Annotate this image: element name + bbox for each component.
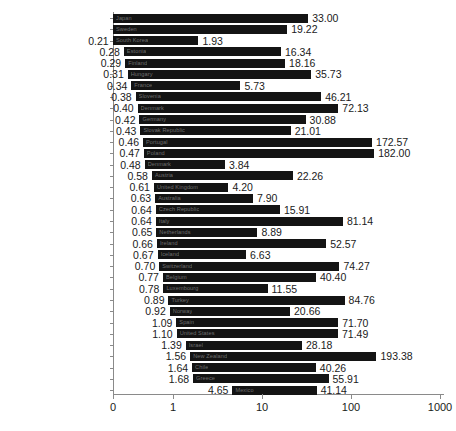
bar-inner-label: Turkey — [171, 296, 189, 305]
bar-inner-label: Chile — [195, 363, 208, 372]
x-axis-tick-label: 1000 — [428, 401, 452, 413]
y-axis-tick — [110, 379, 113, 380]
bar-max-value-label: 41.14 — [321, 384, 347, 396]
bar-inner-label: Slovenia — [139, 92, 161, 101]
range-bar: Australia — [155, 194, 253, 203]
y-axis-tick — [110, 368, 113, 369]
y-axis-tick — [110, 323, 113, 324]
bar-inner-label: Luxembourg — [166, 284, 198, 293]
bar-inner-label: Norway — [173, 307, 193, 316]
range-bar: France — [131, 81, 240, 90]
bar-inner-label: Denmark — [141, 104, 164, 113]
bar-inner-label: United Kingdom — [157, 183, 198, 192]
range-bar: Turkey — [168, 296, 344, 305]
y-axis-tick — [110, 198, 113, 199]
x-axis-tick-label: 1 — [170, 401, 176, 413]
range-bar: Chile — [192, 363, 316, 372]
y-axis-tick — [110, 120, 113, 121]
bar-inner-label: Slovak Republic — [143, 126, 185, 135]
range-bar: Japan — [113, 14, 308, 23]
x-axis-tick-label: 10 — [256, 401, 268, 413]
bar-inner-label: Mexico — [235, 386, 253, 395]
range-bar: Belgium — [163, 273, 316, 282]
chart-title-clipped — [0, 0, 456, 10]
bar-inner-label: Czech Republic — [159, 205, 200, 214]
bar-inner-label: Spain — [179, 318, 194, 327]
range-bar: Ireland — [157, 239, 326, 248]
bar-inner-label: Greece — [196, 374, 215, 383]
bar-inner-label: France — [134, 81, 152, 90]
bar-inner-label: Netherlands — [159, 228, 190, 237]
bar-inner-label: Finland — [128, 59, 147, 68]
x-axis-tick — [262, 394, 263, 399]
range-bar: United Kingdom — [154, 183, 229, 192]
bar-row: MexicoMexico4.6541.14 — [113, 384, 444, 396]
range-bar: Netherlands — [156, 228, 257, 237]
y-axis-tick — [110, 153, 113, 154]
bar-inner-label: Iceland — [161, 250, 180, 259]
range-bar: Israel — [186, 341, 302, 350]
y-axis-tick — [110, 311, 113, 312]
bar-inner-label: New Zealand — [193, 352, 227, 361]
y-axis-tick — [110, 289, 113, 290]
bar-inner-label: Denmark — [148, 160, 171, 169]
bar-min-value-label: 4.65 — [208, 384, 228, 396]
y-axis-tick — [110, 345, 113, 346]
range-bar: Denmark — [145, 160, 225, 169]
bar-inner-label: Australia — [158, 194, 181, 203]
bar-inner-label: Austria — [155, 171, 173, 180]
y-axis-tick — [110, 277, 113, 278]
bar-inner-label: Estonia — [127, 47, 146, 56]
chart-container: JapanJapan33.00SwedenSweden19.22South Ko… — [0, 0, 456, 431]
range-bar: South Korea — [113, 36, 198, 45]
y-axis-tick — [110, 255, 113, 256]
range-bar: Czech Republic — [156, 205, 280, 214]
bar-inner-label: Israel — [189, 341, 203, 350]
y-axis-tick — [110, 131, 113, 132]
bar-inner-label: Portugal — [146, 138, 168, 147]
bar-inner-label: Italy — [159, 217, 170, 226]
y-axis-tick — [110, 142, 113, 143]
x-axis-tick — [173, 394, 174, 399]
range-bar: Sweden — [113, 25, 287, 34]
range-bar: Luxembourg — [163, 284, 267, 293]
range-bar: Spain — [176, 318, 338, 327]
x-axis-tick-label: 0 — [110, 401, 116, 413]
range-bar: Norway — [170, 307, 290, 316]
range-bar: Portugal — [143, 138, 372, 147]
bar-inner-label: Hungary — [131, 70, 153, 79]
range-bar: Finland — [125, 59, 285, 68]
plot-area: JapanJapan33.00SwedenSweden19.22South Ko… — [113, 12, 444, 394]
bar-inner-label: Sweden — [116, 25, 137, 34]
y-axis-tick — [110, 176, 113, 177]
y-axis-tick — [110, 334, 113, 335]
range-bar: Italy — [156, 217, 343, 226]
range-bar: Slovak Republic — [140, 126, 290, 135]
range-bar: Poland — [144, 149, 374, 158]
y-axis-tick — [110, 390, 113, 391]
y-axis-tick — [110, 244, 113, 245]
x-axis-tick — [113, 394, 114, 399]
x-axis-tick-label: 100 — [342, 401, 360, 413]
y-axis-tick — [110, 356, 113, 357]
bar-inner-label: Germany — [142, 115, 166, 124]
bar-inner-label: South Korea — [116, 36, 148, 45]
range-bar: Mexico — [232, 386, 316, 395]
range-bar: Greece — [193, 374, 328, 383]
bar-inner-label: Switzerland — [162, 262, 192, 271]
range-bar: Hungary — [128, 70, 311, 79]
y-axis-tick — [110, 165, 113, 166]
bar-inner-label: Belgium — [166, 273, 187, 282]
range-bar: Austria — [152, 171, 293, 180]
bar-inner-label: Japan — [116, 14, 132, 23]
y-axis-tick — [110, 221, 113, 222]
bar-inner-label: Poland — [147, 149, 165, 158]
y-axis-tick — [110, 300, 113, 301]
bar-inner-label: Ireland — [160, 239, 178, 248]
range-bar: Iceland — [158, 250, 247, 259]
bar-inner-label: United States — [180, 329, 215, 338]
range-bar: Estonia — [124, 47, 281, 56]
y-axis-tick — [110, 210, 113, 211]
y-axis-tick — [110, 187, 113, 188]
x-axis-tick — [351, 394, 352, 399]
